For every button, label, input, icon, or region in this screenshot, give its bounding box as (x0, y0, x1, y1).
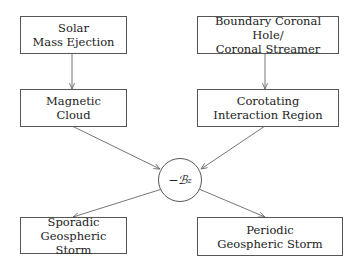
node-label-line: Geospheric Storm (217, 237, 323, 251)
node-sporadic-geospheric-storm: Sporadic Geospheric Storm (20, 217, 127, 254)
node-label-line: Periodic (246, 223, 294, 237)
edge-bz-to-sporadic (73, 189, 162, 217)
node-label-line: Corotating (237, 94, 300, 108)
node-label-line: Geospheric Storm (21, 229, 126, 257)
node-label-line: Boundary Coronal Hole/ (198, 14, 338, 42)
node-label-line: Mass Ejection (33, 35, 115, 49)
bz-subscript: z (187, 176, 191, 185)
node-label-line: Sporadic (48, 215, 100, 229)
node-negative-bz: −ℬz (158, 158, 202, 202)
node-magnetic-cloud: Magnetic Cloud (20, 89, 127, 127)
node-label-line: Cloud (56, 108, 90, 122)
node-label-line: Magnetic (46, 94, 101, 108)
node-corotating-interaction-region: Corotating Interaction Region (197, 89, 339, 127)
node-solar-mass-ejection: Solar Mass Ejection (20, 16, 127, 54)
node-periodic-geospheric-storm: Periodic Geospheric Storm (197, 217, 343, 256)
bz-label: −ℬ (168, 173, 187, 187)
edge-bz-to-periodic (199, 189, 265, 217)
node-label-line: Interaction Region (213, 108, 322, 122)
node-label-line: Solar (58, 21, 89, 35)
edge-magnetic-to-bz (72, 126, 160, 169)
node-label-line: Coronal Streamer (216, 42, 321, 56)
node-boundary-coronal-hole: Boundary Coronal Hole/ Coronal Streamer (197, 16, 339, 54)
edge-cir-to-bz (201, 126, 265, 169)
